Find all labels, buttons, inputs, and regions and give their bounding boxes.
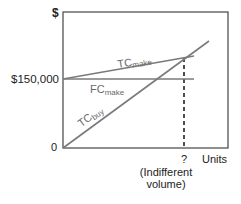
x-axis-label: Units xyxy=(202,153,228,165)
y-axis-label: $ xyxy=(52,6,59,20)
svg-text:TCbuy: TCbuy xyxy=(75,103,106,131)
fc-make-label: FCmake xyxy=(90,83,125,97)
annotation-line-1: (Indifferent xyxy=(140,166,192,178)
y-tick-zero: 0 xyxy=(51,141,57,153)
tc-buy-line xyxy=(63,41,209,148)
plot-frame xyxy=(63,12,228,148)
annotation-line-2: volume) xyxy=(146,178,185,190)
tc-buy-label: TCbuy xyxy=(75,103,106,131)
y-tick-150000: $150,000 xyxy=(11,73,59,85)
x-tick-indifferent: ? xyxy=(181,153,187,165)
cost-chart: $ $150,000 0 ? Units (Indifferent volume… xyxy=(0,0,241,204)
svg-text:FCmake: FCmake xyxy=(90,83,125,97)
svg-text:TCmake: TCmake xyxy=(116,53,153,72)
tc-make-label: TCmake xyxy=(116,53,153,72)
